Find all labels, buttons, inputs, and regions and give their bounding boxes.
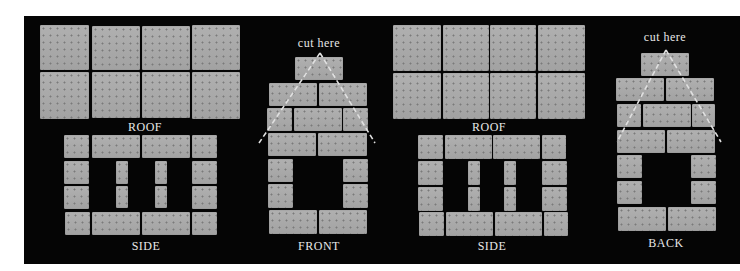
back-cut-lines [24,16,740,264]
back-label: BACK [641,236,691,251]
diagram-panel: ROOF SIDE cut here [24,16,740,264]
